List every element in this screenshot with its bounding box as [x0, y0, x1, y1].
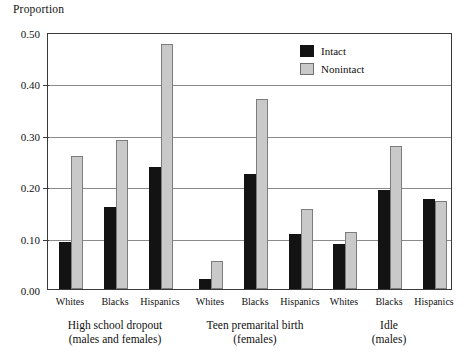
legend-item-nonintact: Nonintact	[300, 60, 364, 78]
chart-legend: Intact Nonintact	[300, 42, 364, 78]
y-axis-tick-label: 0.10	[21, 234, 42, 246]
y-axis-tick-label: 0.40	[21, 79, 42, 91]
plot-area: 0.000.100.200.300.400.50	[47, 33, 452, 290]
legend-label-intact: Intact	[321, 45, 346, 57]
y-axis-tick-label: 0.30	[21, 131, 42, 143]
bar-intact-hispanics-group1	[149, 167, 161, 289]
y-axis-tick-mark	[43, 188, 49, 189]
x-axis-label-whites-group2: Whites	[196, 296, 224, 307]
bar-nonintact-blacks-group2	[256, 99, 268, 289]
gridline	[48, 85, 451, 86]
y-axis-tick-mark	[43, 85, 49, 86]
bar-nonintact-blacks-group3	[390, 146, 402, 289]
group-caption-line1: Teen premarital birth	[207, 318, 304, 332]
group-caption-2: Teen premarital birth(females)	[207, 318, 304, 346]
bar-intact-whites-group2	[199, 279, 211, 289]
bar-chart: Proportion 0.000.100.200.300.400.50 Inta…	[0, 0, 469, 360]
y-axis-title: Proportion	[13, 3, 64, 15]
bar-intact-blacks-group3	[378, 190, 390, 289]
x-axis-label-hispanics-group1: Hispanics	[140, 296, 179, 307]
bar-nonintact-blacks-group1	[116, 140, 128, 289]
bar-nonintact-whites-group3	[345, 232, 357, 289]
x-axis-label-blacks-group3: Blacks	[375, 296, 402, 307]
bar-nonintact-whites-group2	[211, 261, 223, 289]
bar-intact-whites-group3	[333, 244, 345, 289]
y-axis-tick-mark	[43, 240, 49, 241]
group-caption-1: High school dropout(males and females)	[68, 318, 163, 346]
x-axis-label-whites-group1: Whites	[56, 296, 84, 307]
y-axis-tick-label: 0.00	[21, 285, 42, 297]
group-caption-3: Idle(males)	[372, 318, 406, 346]
bar-intact-hispanics-group3	[423, 199, 435, 289]
y-axis-tick-mark	[43, 137, 49, 138]
legend-label-nonintact: Nonintact	[321, 63, 364, 75]
bar-nonintact-hispanics-group3	[435, 201, 447, 289]
group-caption-line2: (males and females)	[68, 332, 163, 346]
legend-swatch-nonintact	[300, 63, 314, 75]
y-axis-tick-label: 0.50	[21, 28, 42, 40]
bar-nonintact-whites-group1	[71, 156, 83, 289]
bar-intact-blacks-group2	[244, 174, 256, 289]
bar-intact-hispanics-group2	[289, 234, 301, 289]
x-axis-label-blacks-group1: Blacks	[101, 296, 128, 307]
legend-item-intact: Intact	[300, 42, 364, 60]
x-axis-label-whites-group3: Whites	[330, 296, 358, 307]
bar-nonintact-hispanics-group1	[161, 44, 173, 289]
x-axis-label-hispanics-group3: Hispanics	[414, 296, 453, 307]
y-axis-tick-label: 0.20	[21, 182, 42, 194]
group-caption-line2: (males)	[372, 332, 406, 346]
group-caption-line2: (females)	[207, 332, 304, 346]
group-caption-line1: High school dropout	[68, 318, 163, 332]
legend-swatch-intact	[300, 45, 314, 57]
x-axis-label-blacks-group2: Blacks	[241, 296, 268, 307]
gridline	[48, 137, 451, 138]
bar-intact-whites-group1	[59, 242, 71, 289]
bar-intact-blacks-group1	[104, 207, 116, 289]
x-axis-label-hispanics-group2: Hispanics	[280, 296, 319, 307]
group-caption-line1: Idle	[372, 318, 406, 332]
bar-nonintact-hispanics-group2	[301, 209, 313, 289]
